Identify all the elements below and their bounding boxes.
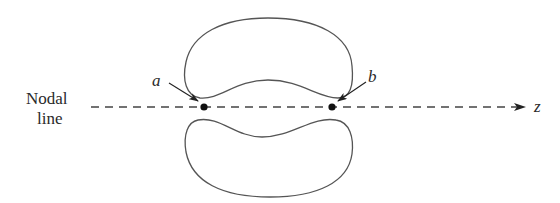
point-b-label: b bbox=[368, 67, 377, 86]
point-b-dot bbox=[328, 103, 335, 110]
point-a-label: a bbox=[152, 71, 161, 90]
lower-lobe bbox=[185, 119, 352, 197]
axis-z-label: z bbox=[533, 97, 541, 116]
nodal-label-line1: Nodal bbox=[26, 89, 68, 108]
point-a-dot bbox=[200, 103, 207, 110]
pointer-arrow-a bbox=[169, 83, 198, 101]
upper-lobe bbox=[185, 18, 353, 98]
orbital-nodal-line-diagram: a b z Nodal line bbox=[0, 0, 560, 203]
nodal-label-line2: line bbox=[37, 109, 63, 128]
